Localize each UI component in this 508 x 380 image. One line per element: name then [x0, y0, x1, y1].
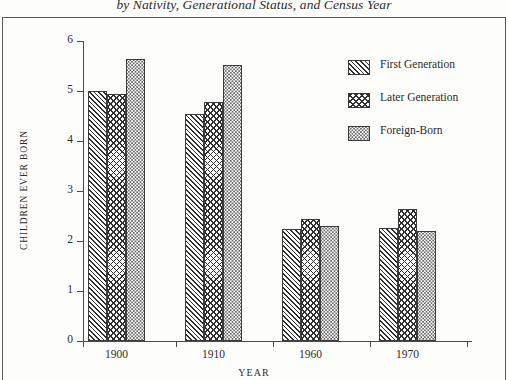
bar	[185, 114, 204, 342]
y-tick	[77, 41, 83, 42]
legend-label: First Generation	[380, 58, 455, 70]
x-axis-title: YEAR	[0, 367, 508, 378]
x-tick	[370, 341, 371, 347]
y-tick	[77, 141, 83, 142]
y-tick-label: 5	[33, 83, 73, 95]
y-tick-label: 3	[33, 183, 73, 195]
x-axis-line	[83, 341, 472, 342]
bar	[223, 65, 242, 341]
legend-label: Later Generation	[380, 91, 458, 103]
y-tick	[77, 191, 83, 192]
x-tick-label: 1970	[378, 348, 438, 360]
bar	[126, 59, 145, 342]
y-tick	[77, 291, 83, 292]
bar	[107, 94, 126, 342]
x-tick-label: 1910	[184, 348, 244, 360]
x-tick	[176, 341, 177, 347]
y-tick	[77, 241, 83, 242]
bar	[204, 102, 223, 341]
y-axis-line	[83, 41, 84, 342]
x-tick-label: 1960	[281, 348, 341, 360]
y-tick-label: 1	[33, 283, 73, 295]
bar	[398, 209, 417, 342]
bar	[320, 226, 339, 341]
x-tick-label: 1900	[87, 348, 147, 360]
plot-area: 0123456 1900191019601970 CHILDREN EVER B…	[0, 0, 508, 380]
y-tick-label: 6	[33, 33, 73, 45]
bar	[282, 229, 301, 342]
bar	[379, 228, 398, 342]
y-tick-label: 0	[33, 333, 73, 345]
y-tick	[77, 91, 83, 92]
x-tick	[83, 341, 84, 347]
legend-swatch	[348, 126, 370, 141]
legend-label: Foreign-Born	[380, 124, 443, 136]
legend-swatch	[348, 93, 370, 108]
x-tick	[467, 341, 468, 347]
x-tick	[273, 341, 274, 347]
bar	[301, 219, 320, 342]
legend-swatch	[348, 60, 370, 75]
chart-figure: by Nativity, Generational Status, and Ce…	[0, 0, 508, 380]
bar	[88, 91, 107, 341]
y-tick-label: 2	[33, 233, 73, 245]
y-axis-title: CHILDREN EVER BORN	[19, 130, 29, 250]
y-tick-label: 4	[33, 133, 73, 145]
bar	[417, 231, 436, 341]
